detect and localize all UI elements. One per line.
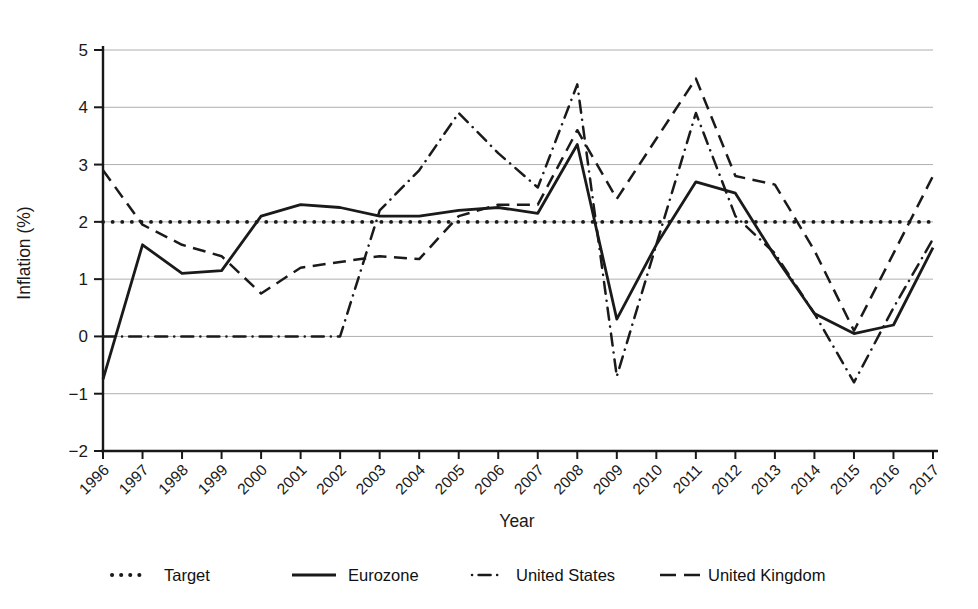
x-tick-label: 2016 (866, 461, 902, 497)
series-line-united-kingdom (103, 79, 933, 331)
x-tick-label: 2009 (590, 461, 626, 497)
x-tick-label: 2003 (352, 461, 388, 497)
y-tick-label: −1 (69, 385, 88, 404)
y-axis-title: Inflation (%) (14, 206, 34, 299)
y-tick-label: 2 (79, 213, 88, 232)
y-axis-ticks: 543210−1−2 (69, 41, 103, 461)
legend-item-target: Target (108, 563, 210, 587)
x-tick-label: 2011 (669, 461, 705, 497)
x-tick-label: 2000 (234, 461, 271, 498)
legend-label-united-states: United States (516, 566, 615, 585)
x-tick-label: 2005 (431, 461, 467, 497)
x-tick-label: 2014 (787, 461, 824, 498)
x-tick-label: 2017 (906, 461, 942, 497)
legend-label-united-kingdom: United Kingdom (708, 566, 825, 585)
y-tick-label: 4 (79, 98, 88, 117)
inflation-line-chart: 543210−1−2 19961997199819992000200120022… (0, 0, 978, 545)
x-tick-label: 1998 (155, 461, 191, 497)
x-tick-label: 2012 (708, 461, 744, 497)
x-tick-label: 2013 (748, 461, 784, 497)
x-tick-label: 2001 (273, 461, 309, 497)
legend-item-united-kingdom: United Kingdom (658, 563, 825, 587)
series-line-eurozone (103, 145, 933, 380)
y-tick-label: 0 (79, 327, 88, 346)
x-tick-label: 2006 (471, 461, 507, 497)
legend-item-united-states: United States (470, 563, 615, 587)
eurozone-solid-line-swatch (290, 569, 338, 581)
x-axis-title: Year (499, 511, 535, 531)
united-kingdom-dashed-line-swatch (658, 569, 704, 581)
x-tick-label: 2010 (629, 461, 666, 498)
y-tick-label: −2 (69, 442, 88, 461)
x-tick-label: 2008 (550, 461, 586, 497)
x-tick-label: 2002 (313, 461, 349, 497)
legend-label-eurozone: Eurozone (348, 566, 419, 585)
united-states-dashdot-line-swatch (470, 569, 506, 581)
target-dotted-line-swatch (108, 569, 146, 581)
x-tick-label: 2004 (392, 461, 429, 498)
y-tick-label: 5 (79, 41, 88, 60)
y-tick-label: 3 (79, 156, 88, 175)
legend-label-target: Target (164, 566, 210, 585)
inflation-chart-figure: 543210−1−2 19961997199819992000200120022… (0, 0, 978, 609)
legend: Target Eurozone United States United Kin… (0, 563, 978, 589)
x-tick-label: 2007 (510, 461, 546, 497)
x-tick-label: 1996 (76, 461, 112, 497)
series-line-united-states (103, 84, 933, 382)
x-axis-ticks: 1996199719981999200020012002200320042005… (76, 451, 942, 498)
x-tick-label: 2015 (827, 461, 863, 497)
x-tick-label: 1997 (115, 461, 151, 497)
y-tick-label: 1 (79, 270, 88, 289)
x-tick-label: 1999 (194, 461, 230, 497)
legend-item-eurozone: Eurozone (290, 563, 419, 587)
